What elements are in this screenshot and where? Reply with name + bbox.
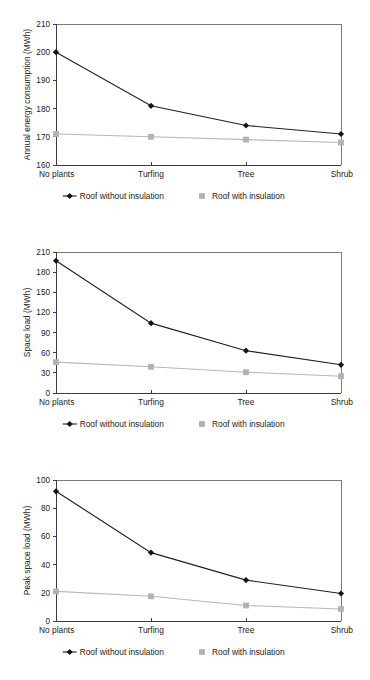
figure-page: 160170180190200210No plantsTurfingTreeSh…: [0, 0, 370, 680]
data-point-marker-diamond: [243, 122, 249, 128]
data-point-marker-square: [53, 131, 59, 137]
x-category-label: Shrub: [331, 625, 354, 635]
legend-label-with-insulation: Roof with insulation: [212, 191, 285, 201]
data-point-marker-diamond: [338, 590, 344, 596]
series-line: [56, 134, 341, 142]
data-point-marker-diamond: [53, 488, 59, 494]
y-tick-label: 60: [41, 532, 51, 541]
plot-area: 020406080100No plantsTurfingTreeShrubPea…: [0, 456, 370, 680]
y-tick-label: 30: [41, 369, 51, 378]
y-axis-title: Space load (MWh): [22, 288, 32, 358]
plot-axes: [56, 24, 341, 165]
data-point-marker-diamond: [243, 348, 249, 354]
data-point-marker-diamond: [148, 320, 154, 326]
x-category-label: No plants: [39, 625, 74, 635]
y-tick-label: 190: [36, 76, 50, 85]
y-tick-label: 100: [36, 476, 50, 485]
data-point-marker-square: [338, 606, 344, 612]
x-category-label: Tree: [238, 169, 255, 179]
data-point-marker-square: [243, 603, 249, 609]
legend: Roof without insulationRoof with insulat…: [63, 191, 285, 201]
chart-space-load: 0306090120150180210No plantsTurfingTreeS…: [0, 228, 370, 453]
data-point-marker-diamond: [338, 131, 344, 137]
data-point-marker-square: [148, 134, 154, 140]
x-category-label: Turfing: [138, 397, 164, 407]
legend-marker-diamond: [67, 421, 73, 427]
series-line: [56, 362, 341, 376]
data-point-marker-square: [148, 593, 154, 599]
legend-label-without-insulation: Roof without insulation: [80, 419, 165, 429]
x-category-label: Shrub: [331, 169, 354, 179]
data-point-marker-square: [243, 137, 249, 143]
legend-marker-diamond: [67, 649, 73, 655]
plot-frame: [56, 252, 341, 393]
data-point-marker-diamond: [338, 362, 344, 368]
series-line: [56, 52, 341, 134]
legend-marker-square: [199, 649, 205, 655]
legend-marker-square: [199, 193, 205, 199]
chart-annual-energy-consumption: 160170180190200210No plantsTurfingTreeSh…: [0, 0, 370, 225]
x-category-label: Tree: [238, 397, 255, 407]
legend-label-without-insulation: Roof without insulation: [80, 647, 165, 657]
legend-marker-square: [199, 421, 205, 427]
series-line: [56, 261, 341, 365]
data-point-marker-square: [53, 588, 59, 594]
y-tick-label: 150: [36, 288, 50, 297]
y-tick-label: 170: [36, 133, 50, 142]
data-point-marker-diamond: [148, 550, 154, 556]
x-category-label: Tree: [238, 625, 255, 635]
x-category-label: Shrub: [331, 397, 354, 407]
x-category-label: No plants: [39, 169, 74, 179]
y-tick-label: 210: [36, 20, 50, 29]
y-tick-label: 180: [36, 268, 50, 277]
y-tick-label: 180: [36, 105, 50, 114]
legend-label-with-insulation: Roof with insulation: [212, 419, 285, 429]
data-point-marker-square: [243, 369, 249, 375]
data-point-marker-square: [53, 359, 59, 365]
data-point-marker-square: [338, 373, 344, 379]
legend-label-with-insulation: Roof with insulation: [212, 647, 285, 657]
chart-peak-space-load: 020406080100No plantsTurfingTreeShrubPea…: [0, 456, 370, 680]
y-tick-label: 80: [41, 504, 51, 513]
plot-frame: [56, 480, 341, 621]
legend: Roof without insulationRoof with insulat…: [63, 419, 285, 429]
plot-axes: [56, 480, 341, 621]
data-point-marker-diamond: [53, 49, 59, 55]
y-tick-label: 200: [36, 48, 50, 57]
y-tick-label: 60: [41, 349, 51, 358]
y-tick-label: 20: [41, 589, 51, 598]
y-axis-title: Annual energy consumption (MWh): [22, 29, 32, 160]
plot-axes: [56, 252, 341, 393]
y-tick-label: 40: [41, 561, 51, 570]
x-category-label: No plants: [39, 397, 74, 407]
y-axis-title: Peak space load (MWh): [22, 506, 32, 596]
legend-label-without-insulation: Roof without insulation: [80, 191, 165, 201]
data-point-marker-diamond: [148, 103, 154, 109]
plot-area: 160170180190200210No plantsTurfingTreeSh…: [0, 0, 370, 225]
plot-frame: [56, 24, 341, 165]
series-line: [56, 491, 341, 593]
x-category-label: Turfing: [138, 169, 164, 179]
data-point-marker-diamond: [53, 258, 59, 264]
data-point-marker-square: [148, 364, 154, 370]
legend: Roof without insulationRoof with insulat…: [63, 647, 285, 657]
data-point-marker-diamond: [243, 577, 249, 583]
y-tick-label: 120: [36, 308, 50, 317]
series-line: [56, 591, 341, 609]
x-category-label: Turfing: [138, 625, 164, 635]
data-point-marker-square: [338, 140, 344, 146]
legend-marker-diamond: [67, 193, 73, 199]
plot-area: 0306090120150180210No plantsTurfingTreeS…: [0, 228, 370, 453]
y-tick-label: 90: [41, 329, 51, 338]
y-tick-label: 210: [36, 248, 50, 257]
